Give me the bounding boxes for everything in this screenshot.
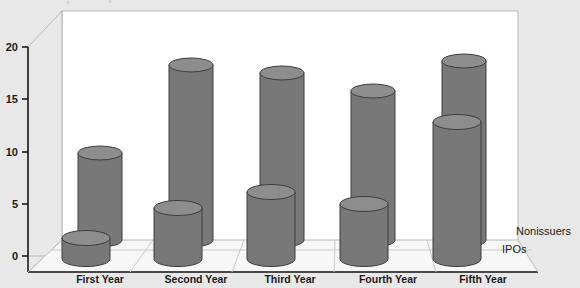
- bar-ipos-fifth-year: [433, 115, 481, 267]
- legend-label-ipos: IPOs: [502, 243, 527, 255]
- bar-ipos-first-year: [62, 231, 110, 267]
- bar-ipos-second-year: [154, 201, 202, 267]
- bar-ipos-fourth-year: [340, 197, 388, 267]
- y-tick-label-15: 15: [6, 93, 18, 105]
- clipped-title-text-2: •: [108, 0, 112, 7]
- bar-chart-3d: • • 20 15 10 5 0: [0, 0, 580, 288]
- y-tick-label-10: 10: [6, 146, 18, 158]
- y-tick-label-20: 20: [6, 41, 18, 53]
- bar-ipos-third-year: [247, 185, 295, 267]
- x-label-second-year: Second Year: [165, 273, 228, 285]
- x-label-third-year: Third Year: [264, 273, 315, 285]
- y-tick-label-5: 5: [12, 198, 18, 210]
- legend-label-nonissuers: Nonissuers: [516, 225, 572, 237]
- x-label-fourth-year: Fourth Year: [359, 273, 417, 285]
- x-label-fifth-year: Fifth Year: [459, 273, 507, 285]
- chart-container: • • 20 15 10 5 0: [0, 0, 580, 288]
- clipped-title-text: •: [66, 0, 70, 8]
- x-label-first-year: First Year: [76, 273, 124, 285]
- plot-left-wall: [28, 11, 62, 256]
- y-tick-label-0: 0: [12, 250, 18, 262]
